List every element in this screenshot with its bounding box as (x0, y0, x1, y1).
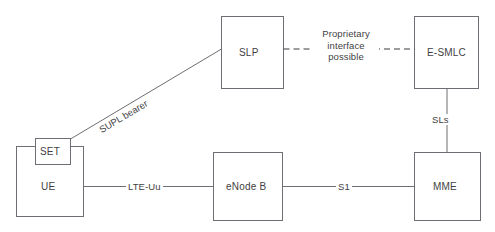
node-label-ue: UE (41, 181, 55, 192)
node-label-enodeb: eNode B (226, 181, 266, 192)
diagram-canvas (0, 0, 495, 232)
edge-label-sls: SLs (430, 114, 451, 125)
edge-label-lte-uu: LTE-Uu (126, 181, 163, 192)
node-label-esmlc: E-SMLC (427, 47, 466, 58)
network-diagram: SET UE SLP E-SMLC eNode B MME SUPL beare… (0, 0, 495, 232)
proprietary-line-2: interface (316, 40, 376, 52)
edge-label-s1: S1 (336, 181, 352, 192)
node-label-mme: MME (433, 181, 457, 192)
node-label-slp: SLP (239, 47, 259, 58)
edge-label-proprietary-interface: Proprietary interface possible (313, 27, 379, 64)
node-label-set: SET (40, 146, 60, 157)
proprietary-line-3: possible (316, 51, 376, 63)
edge-line-supl-bearer[interactable] (71, 49, 222, 139)
proprietary-line-1: Proprietary (316, 28, 376, 40)
